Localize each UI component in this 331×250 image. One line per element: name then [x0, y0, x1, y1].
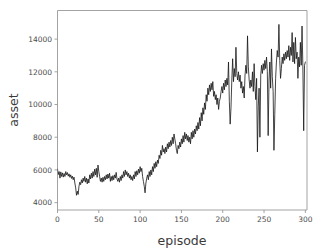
x-tick-label: 50 [94, 215, 104, 224]
y-tick-label: 6000 [33, 166, 52, 175]
chart-figure: 0501001502002503004000600080001000012000… [0, 0, 331, 250]
y-tick-label: 10000 [28, 100, 52, 109]
y-tick-label: 4000 [33, 198, 52, 207]
x-tick-label: 100 [133, 215, 148, 224]
x-axis-title: episode [158, 233, 207, 248]
x-tick-label: 250 [257, 215, 272, 224]
y-tick-label: 8000 [33, 133, 52, 142]
data-series-group [58, 24, 306, 195]
x-tick-label: 150 [174, 215, 189, 224]
axes-group [58, 11, 308, 211]
y-tick-label: 12000 [28, 68, 52, 77]
data-series-line [58, 24, 306, 195]
x-tick-label: 200 [216, 215, 231, 224]
x-tick-label: 0 [55, 215, 60, 224]
x-tick-label: 300 [298, 215, 313, 224]
line-chart: 0501001502002503004000600080001000012000… [0, 0, 331, 250]
y-tick-label: 14000 [28, 35, 52, 44]
y-axis-title: asset [6, 93, 21, 126]
